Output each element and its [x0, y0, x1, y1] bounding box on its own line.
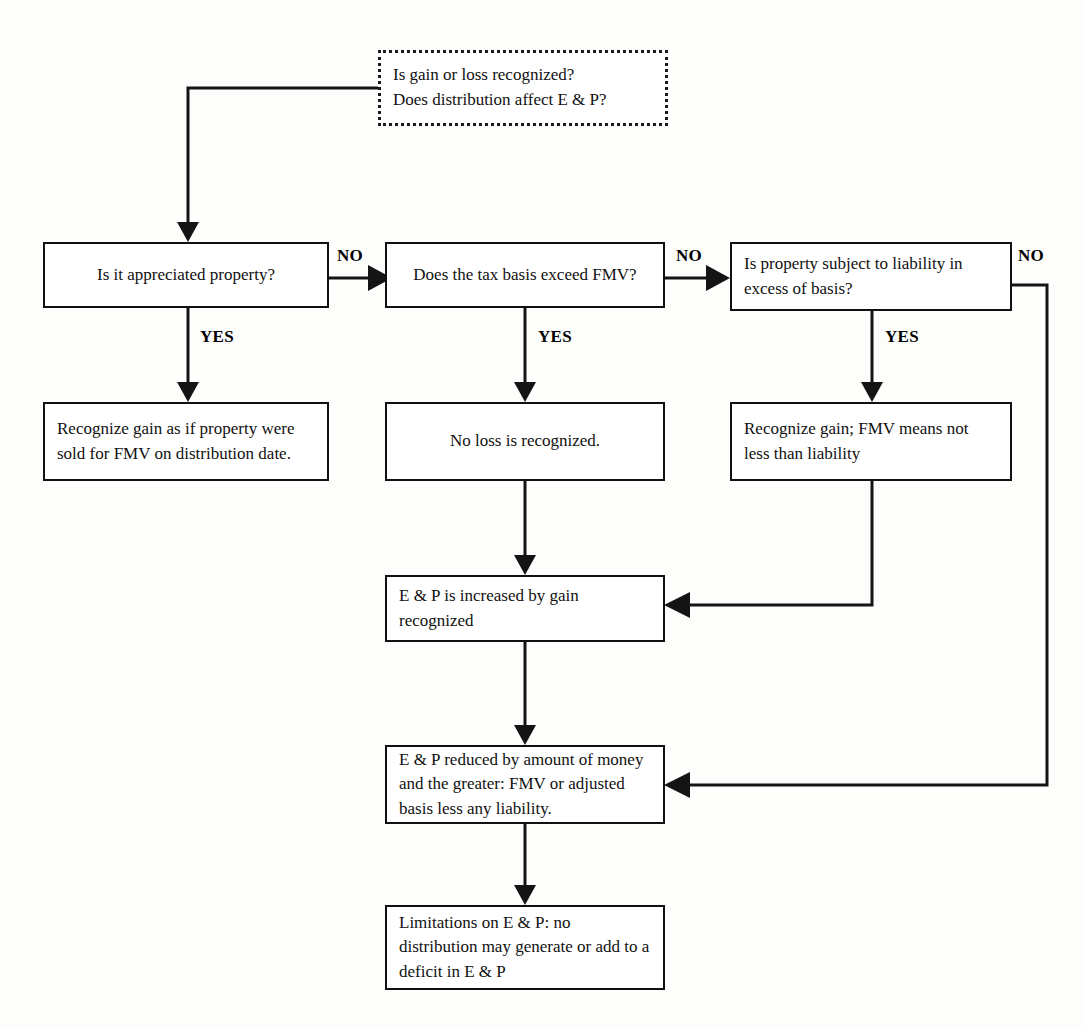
node-recognize-gain-fmv[interactable]: Recognize gain as if property were sold … — [43, 402, 329, 481]
node-recognize-gain-fmv-label: Recognize gain as if property were sold … — [57, 417, 315, 466]
node-start-question-label: Is gain or loss recognized? Does distrib… — [393, 63, 607, 112]
node-q-liability-excess-label: Is property subject to liability in exce… — [744, 252, 998, 301]
node-no-loss-label: No loss is recognized. — [450, 429, 600, 454]
node-recognize-gain-liability[interactable]: Recognize gain; FMV means not less than … — [730, 402, 1012, 481]
arrowhead-epincreased-to-epreduced — [514, 725, 536, 745]
edge-label-no-1: NO — [337, 246, 363, 266]
node-q-appreciated-label: Is it appreciated property? — [97, 263, 275, 288]
arrowhead-noloss-to-epincreased — [514, 555, 536, 575]
flowchart-canvas: Is gain or loss recognized? Does distrib… — [0, 0, 1086, 1027]
edge-label-no-3: NO — [1018, 246, 1044, 266]
node-no-loss[interactable]: No loss is recognized. — [385, 402, 665, 481]
arrowhead-to-appreciated — [177, 222, 199, 242]
node-q-basis-exceed-fmv[interactable]: Does the tax basis exceed FMV? — [385, 242, 665, 308]
node-ep-limitations-label: Limitations on E & P: no distribution ma… — [399, 911, 651, 985]
node-ep-increased[interactable]: E & P is increased by gain recognized — [385, 575, 665, 642]
arrowhead-liability-yes — [861, 382, 883, 402]
arrowhead-to-epincreased — [664, 592, 690, 618]
node-ep-reduced[interactable]: E & P reduced by amount of money and the… — [385, 745, 665, 824]
edge-label-yes-3: YES — [885, 327, 919, 347]
connector-layer — [0, 0, 1086, 1027]
node-recognize-gain-liability-label: Recognize gain; FMV means not less than … — [744, 417, 998, 466]
edge-label-yes-2: YES — [538, 327, 572, 347]
node-ep-increased-label: E & P is increased by gain recognized — [399, 584, 651, 633]
node-start-question[interactable]: Is gain or loss recognized? Does distrib… — [378, 50, 668, 126]
node-q-basis-exceed-fmv-label: Does the tax basis exceed FMV? — [413, 263, 636, 288]
arrowhead-basis-yes — [514, 382, 536, 402]
node-ep-limitations[interactable]: Limitations on E & P: no distribution ma… — [385, 905, 665, 990]
edge-label-no-2: NO — [676, 246, 702, 266]
node-q-liability-excess[interactable]: Is property subject to liability in exce… — [730, 242, 1012, 311]
arrowhead-basis-no — [706, 265, 730, 291]
node-ep-reduced-label: E & P reduced by amount of money and the… — [399, 748, 651, 822]
connector-start-to-appreciated — [188, 88, 378, 222]
arrowhead-liability-no — [664, 772, 690, 798]
arrowhead-epreduced-to-limitations — [514, 885, 536, 905]
node-q-appreciated[interactable]: Is it appreciated property? — [43, 242, 329, 308]
connector-liability-no — [690, 285, 1047, 785]
arrowhead-appreciated-yes — [177, 382, 199, 402]
connector-recognize-to-epincreased — [690, 481, 872, 605]
edge-label-yes-1: YES — [200, 327, 234, 347]
